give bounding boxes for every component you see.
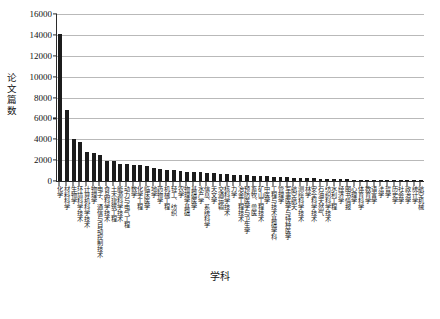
x-label-cell: 食品科学技术	[103, 186, 110, 264]
x-label-cell: 经济学	[337, 186, 344, 264]
y-axis-title: 论文篇数	[4, 40, 18, 150]
bar[interactable]	[252, 176, 256, 181]
bar[interactable]	[259, 176, 263, 181]
x-axis-category-label: 语言学	[370, 186, 377, 204]
bar[interactable]	[405, 180, 409, 181]
x-axis-category-label: 中医学	[263, 186, 270, 204]
bar[interactable]	[112, 161, 116, 181]
bar-cell	[184, 14, 191, 181]
bar[interactable]	[292, 178, 296, 181]
bar[interactable]	[219, 174, 223, 181]
x-label-cell: 化学	[56, 186, 63, 264]
bar[interactable]	[145, 166, 149, 181]
bar[interactable]	[279, 177, 283, 181]
x-label-cell: 药物学	[156, 186, 163, 264]
x-axis-category-label: 经济学	[337, 186, 344, 204]
bar[interactable]	[199, 172, 203, 181]
bar[interactable]	[379, 180, 383, 181]
bar[interactable]	[118, 164, 122, 181]
bar[interactable]	[372, 180, 376, 181]
x-label-cell: 电子、通信与自动控制技术	[96, 186, 103, 264]
x-axis-category-label: 冶金工程技术	[237, 186, 244, 222]
bar[interactable]	[65, 110, 69, 181]
bar[interactable]	[85, 152, 89, 181]
bar[interactable]	[172, 170, 176, 181]
x-axis-category-label: 军事医学与特种医学	[283, 186, 290, 240]
bar[interactable]	[352, 180, 356, 182]
x-label-cell: 材料科学	[63, 186, 70, 264]
bar-cell	[344, 14, 351, 181]
bar[interactable]	[265, 176, 269, 181]
bar-cell	[110, 14, 117, 181]
bar[interactable]	[212, 173, 216, 181]
bar-cell	[117, 14, 124, 181]
bar[interactable]	[332, 179, 336, 181]
x-label-cell: 数学	[130, 186, 137, 264]
bar[interactable]	[392, 180, 396, 181]
bar-cell	[331, 14, 338, 181]
bar[interactable]	[285, 177, 289, 181]
x-axis-category-label: 物理学	[89, 186, 96, 204]
x-label-cell: 地学	[150, 186, 157, 264]
bar[interactable]	[225, 174, 229, 181]
x-axis-category-label: 天文学	[210, 186, 217, 204]
bar[interactable]	[385, 180, 389, 181]
bar-cell	[371, 14, 378, 181]
bar[interactable]	[359, 180, 363, 181]
bar[interactable]	[365, 180, 369, 181]
bar[interactable]	[152, 168, 156, 181]
bar[interactable]	[158, 169, 162, 181]
x-axis-category-label: 生物学	[69, 186, 76, 204]
bar[interactable]	[325, 179, 329, 181]
bar[interactable]	[72, 139, 76, 181]
bar-cell	[257, 14, 264, 181]
bar[interactable]	[179, 171, 183, 181]
bar[interactable]	[92, 153, 96, 181]
bar[interactable]	[319, 179, 323, 182]
bar[interactable]	[125, 164, 129, 181]
bar[interactable]	[105, 161, 109, 181]
bar[interactable]	[192, 172, 196, 181]
bar[interactable]	[232, 175, 236, 181]
x-axis-category-label: 食品科学技术	[103, 186, 110, 222]
bar[interactable]	[299, 178, 303, 181]
bar-cell	[90, 14, 97, 181]
bar[interactable]	[312, 178, 316, 181]
bar[interactable]	[412, 180, 416, 181]
bar[interactable]	[419, 180, 423, 181]
bar-cell	[311, 14, 318, 181]
bar[interactable]	[98, 155, 102, 181]
x-axis-category-label: 林学	[303, 186, 310, 198]
bar[interactable]	[239, 175, 243, 181]
x-axis-category-label: 机械工程	[163, 186, 170, 210]
bar-cell	[57, 14, 64, 181]
x-label-cell: 预防医学与卫生学	[243, 186, 250, 264]
x-axis-category-label: 土木建筑工程	[110, 186, 117, 222]
bar[interactable]	[205, 173, 209, 181]
bar-cell	[277, 14, 284, 181]
x-label-cell: 中医学	[263, 186, 270, 264]
bar-cell	[204, 14, 211, 181]
bar[interactable]	[399, 180, 403, 181]
bar-cell	[404, 14, 411, 181]
bar[interactable]	[58, 34, 62, 181]
bar[interactable]	[185, 172, 189, 181]
bar[interactable]	[345, 179, 349, 181]
bar[interactable]	[78, 142, 82, 181]
x-axis-category-label: 数学	[130, 186, 137, 198]
bar[interactable]	[339, 179, 343, 181]
bar-cell	[97, 14, 104, 181]
x-axis-category-label: 管理学	[277, 186, 284, 204]
bar-cell	[217, 14, 224, 181]
bar[interactable]	[272, 177, 276, 181]
bar-cell	[411, 14, 418, 181]
x-label-cell: 安全科学技术	[310, 186, 317, 264]
bar[interactable]	[138, 165, 142, 181]
bar[interactable]	[305, 178, 309, 181]
bar[interactable]	[165, 170, 169, 181]
x-label-cell: 航空机械	[417, 186, 424, 264]
bar-cell	[197, 14, 204, 181]
bar[interactable]	[132, 165, 136, 181]
x-axis-category-label: 核科学技术	[223, 186, 230, 216]
bar[interactable]	[245, 175, 249, 181]
